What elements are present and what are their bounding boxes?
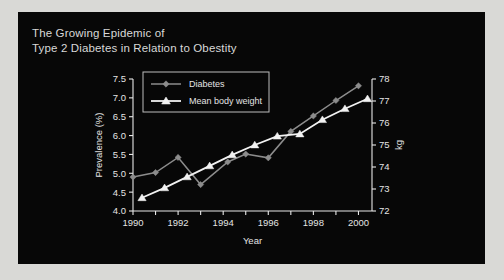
x-axis-tick-label: 1996 xyxy=(258,217,279,228)
y-axis-left-tick-label: 6.5 xyxy=(113,111,126,122)
x-axis-tick-label: 1992 xyxy=(168,217,189,228)
y-axis-left-tick-label: 7.5 xyxy=(113,73,126,84)
y-axis-right-tick-label: 77 xyxy=(379,95,390,106)
series-line-mean-body-weight xyxy=(142,99,367,198)
data-point-marker xyxy=(130,174,136,180)
y-axis-right-tick-label: 76 xyxy=(379,117,390,128)
data-point-marker xyxy=(163,81,169,87)
y-axis-left-tick-label: 4.0 xyxy=(113,205,126,216)
data-point-marker xyxy=(243,151,249,157)
chart-panel: The Growing Epidemic of Type 2 Diabetes … xyxy=(18,12,485,264)
x-axis-tick-label: 1990 xyxy=(122,217,143,228)
y-axis-right-tick-label: 78 xyxy=(379,73,390,84)
y-axis-left-tick-label: 5.0 xyxy=(113,168,126,179)
x-axis-tick-label: 1998 xyxy=(303,217,324,228)
y-axis-left-tick-label: 5.5 xyxy=(113,149,126,160)
x-axis-title: Year xyxy=(243,235,262,246)
screenshot-root: The Growing Epidemic of Type 2 Diabetes … xyxy=(0,0,504,280)
data-point-marker xyxy=(363,95,371,102)
y-axis-right-tick-label: 73 xyxy=(379,183,390,194)
x-axis-tick-label: 2000 xyxy=(348,217,369,228)
y-axis-left-tick-label: 7.0 xyxy=(113,92,126,103)
y-axis-right-title: kg xyxy=(393,140,404,150)
x-axis-tick-label: 1994 xyxy=(213,217,234,228)
diabetes-obesity-line-chart: 4.04.55.05.56.06.57.07.5Prevalence (%)72… xyxy=(18,12,485,264)
y-axis-right-tick-label: 74 xyxy=(379,161,390,172)
y-axis-right-tick-label: 72 xyxy=(379,205,390,216)
y-axis-left-tick-label: 4.5 xyxy=(113,187,126,198)
y-axis-right-tick-label: 75 xyxy=(379,139,390,150)
y-axis-left-title: Prevalence (%) xyxy=(93,113,104,178)
legend-label-1: Mean body weight xyxy=(189,96,263,106)
y-axis-left-tick-label: 6.0 xyxy=(113,130,126,141)
legend-label-0: Diabetes xyxy=(189,79,225,89)
